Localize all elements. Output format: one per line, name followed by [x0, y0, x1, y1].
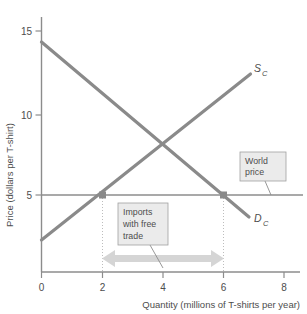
demand-label-main: D [254, 212, 262, 224]
double-headed-arrow [102, 250, 224, 267]
x-tick-label-2: 2 [100, 282, 106, 293]
imports-span-arrow [102, 250, 224, 267]
supply-label-sub: C [262, 69, 268, 78]
x-tick-label-4: 4 [160, 282, 166, 293]
world-price-line-1: World [245, 156, 268, 166]
imports-line-3: trade [123, 231, 143, 241]
world-price-line-2: price [245, 167, 264, 177]
x-axis-title: Quantity (millions of T-shirts per year) [142, 299, 300, 310]
marker-domestic-supply-q2 [99, 192, 106, 199]
marker-domestic-demand-q6 [220, 192, 227, 199]
x-tick-label-8: 8 [281, 282, 287, 293]
imports-line-2: with free [122, 219, 156, 229]
supply-label-main: S [254, 62, 261, 74]
world-price-leader-line [265, 181, 271, 195]
world-price-callout: World price [240, 152, 286, 195]
y-tick-label-10: 10 [21, 110, 33, 121]
x-tick-label-6: 6 [221, 282, 227, 293]
y-tick-label-5: 5 [26, 190, 32, 201]
demand-curve [42, 42, 250, 217]
supply-demand-chart: 15 10 5 0 2 4 6 8 Price (dollars per T-s… [0, 0, 307, 314]
y-axis-title: Price (dollars per T-shirt) [4, 123, 15, 227]
y-tick-label-15: 15 [21, 26, 33, 37]
imports-line-1: Imports [123, 207, 153, 217]
x-tick-label-0: 0 [39, 282, 45, 293]
chart-canvas: 15 10 5 0 2 4 6 8 Price (dollars per T-s… [0, 0, 307, 314]
demand-label-sub: C [263, 219, 269, 228]
demand-curve-label: D C [254, 212, 269, 228]
supply-curve-label: S C [254, 62, 268, 78]
